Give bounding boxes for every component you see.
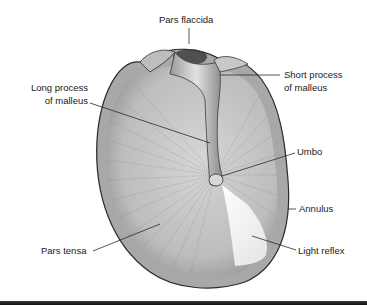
label-umbo: Umbo	[297, 146, 322, 157]
label-pars-tensa: Pars tensa	[41, 245, 86, 256]
label-annulus: Annulus	[299, 203, 333, 214]
umbo-knob	[209, 174, 223, 186]
label-long-process-line2: of malleus	[20, 95, 88, 106]
tympanic-membrane-diagram: Pars flaccida Short process of malleus L…	[0, 0, 367, 305]
label-short-process-line2: of malleus	[284, 82, 327, 93]
label-short-process-line1: Short process	[284, 69, 343, 80]
label-pars-flaccida: Pars flaccida	[159, 14, 213, 25]
label-long-process-line1: Long process	[20, 82, 88, 93]
bottom-border	[0, 301, 367, 305]
label-light-reflex: Light reflex	[298, 245, 344, 256]
